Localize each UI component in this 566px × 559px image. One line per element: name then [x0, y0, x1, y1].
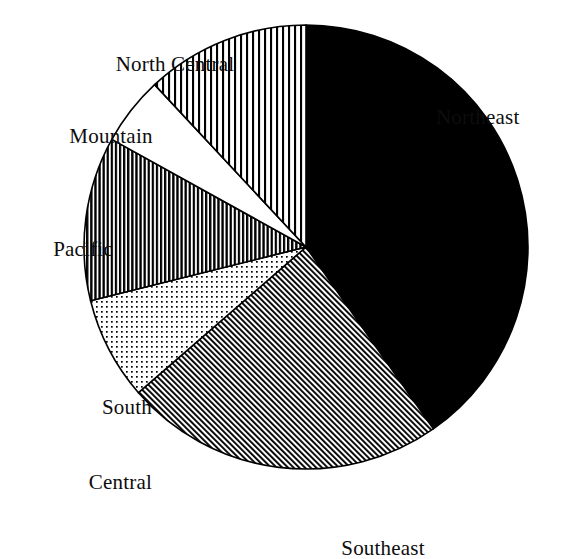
- pie-label-northeast: Northeast: [436, 55, 566, 180]
- pie-label-south-central-line2: Central: [0, 470, 152, 495]
- pie-label-south-central-line1: South: [0, 395, 152, 420]
- pie-label-southeast: Southeast: [300, 486, 466, 559]
- pie-label-pacific-text: Pacific: [0, 237, 166, 262]
- pie-label-mountain: Mountain: [16, 74, 206, 199]
- pie-label-pacific: Pacific: [0, 187, 166, 312]
- pie-label-southeast-text: Southeast: [300, 536, 466, 559]
- pie-label-mountain-text: Mountain: [16, 124, 206, 149]
- pie-label-northeast-text: Northeast: [436, 105, 566, 130]
- pie-label-south-central: South Central: [0, 345, 152, 545]
